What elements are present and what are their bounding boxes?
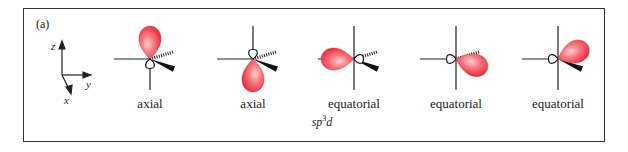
orbital-label-3: equatorial bbox=[304, 96, 404, 112]
axis-label-x: x bbox=[64, 94, 69, 106]
axis-label-y: y bbox=[86, 78, 91, 90]
orbital-label-2: axial bbox=[203, 96, 303, 112]
orbital-equatorial-left bbox=[318, 26, 379, 90]
orbital-label-5: equatorial bbox=[508, 96, 608, 112]
orbital-axial-down bbox=[217, 26, 278, 92]
orbital-equatorial-front bbox=[522, 26, 593, 90]
orbital-equatorial-back bbox=[420, 26, 491, 90]
orbital-axial-up bbox=[114, 26, 175, 90]
axis-label-z: z bbox=[51, 40, 55, 52]
orbital-label-4: equatorial bbox=[406, 96, 506, 112]
orbital-label-1: axial bbox=[100, 96, 200, 112]
hybridization-label: sp3d bbox=[300, 114, 344, 130]
